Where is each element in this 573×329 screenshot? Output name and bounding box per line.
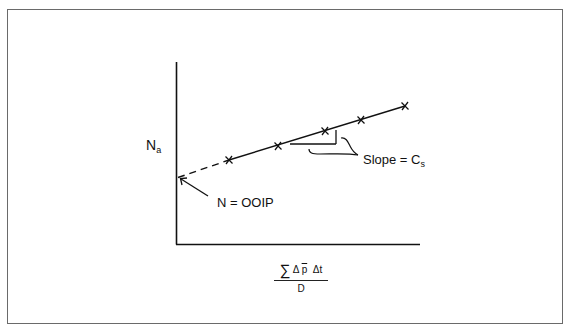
p-bar-symbol: p: [302, 264, 308, 275]
intercept-annotation: N = OOIP: [217, 196, 274, 209]
intercept-arrow: [181, 178, 209, 196]
x-axis-label-numerator: ∑ Δ p Δt: [274, 261, 328, 281]
extrapolation-line: [178, 160, 229, 178]
y-axis-label: Na: [146, 138, 161, 155]
delta-symbol: Δ: [293, 264, 299, 275]
y-axis-label-subscript: a: [156, 145, 161, 155]
slope-triangle: [290, 130, 336, 144]
slope-annotation: Slope = Cs: [363, 153, 425, 169]
slope-annotation-main: Slope = C: [363, 152, 420, 167]
slope-annotation-subscript: s: [420, 159, 425, 169]
x-axis-label-denominator: D: [274, 281, 328, 294]
sigma-symbol: ∑: [280, 261, 291, 278]
data-point-marker: [226, 156, 233, 164]
slope-brace: [309, 138, 358, 155]
x-axis-label: ∑ Δ p Δt D: [274, 261, 328, 294]
y-axis-label-main: N: [146, 137, 156, 153]
data-point-marker: [402, 102, 409, 110]
delta-t-symbol: Δt: [313, 264, 322, 275]
